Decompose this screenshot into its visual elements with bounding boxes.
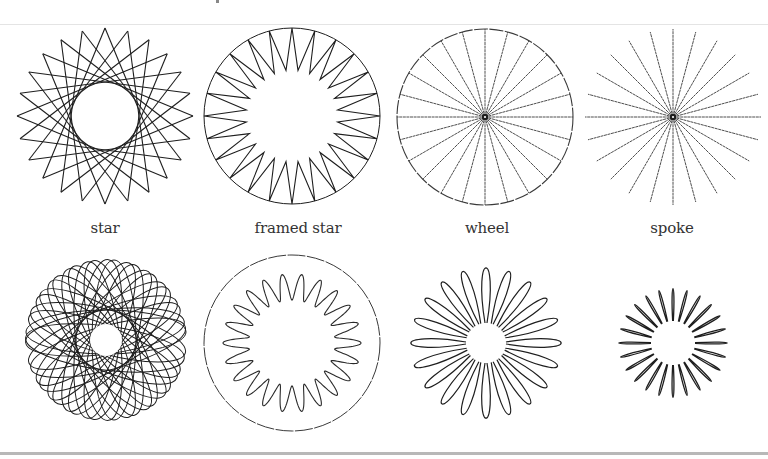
label-spoke: spoke xyxy=(592,219,752,237)
spoke-line xyxy=(400,117,485,140)
star-chord xyxy=(29,72,190,93)
spoke-line xyxy=(409,73,485,117)
star-chord xyxy=(128,40,149,201)
petal xyxy=(678,291,687,322)
spoke-line xyxy=(485,117,508,202)
spoke-line xyxy=(441,41,485,117)
spoke-line xyxy=(462,117,485,202)
petal xyxy=(482,268,491,323)
frame-circle xyxy=(204,255,380,431)
petal xyxy=(414,348,467,367)
pattern-looped-star xyxy=(21,255,191,426)
petal xyxy=(491,271,510,324)
spoke-line xyxy=(629,41,673,117)
spoke-line xyxy=(485,55,547,117)
petal xyxy=(672,289,674,321)
star-zigzag xyxy=(204,28,380,204)
spoke-line xyxy=(485,117,529,193)
spoke-line xyxy=(441,117,485,193)
petal xyxy=(461,362,480,415)
spoke-line xyxy=(597,117,673,161)
bottom-divider xyxy=(0,452,768,455)
petal xyxy=(461,271,480,324)
petal xyxy=(695,342,727,344)
spoke-line xyxy=(611,117,673,179)
spoke-line xyxy=(400,94,485,117)
spoke-line xyxy=(673,32,696,117)
petal xyxy=(491,362,510,415)
star-chord xyxy=(61,40,82,201)
spoke-line xyxy=(673,117,758,140)
spoke-line xyxy=(423,117,485,179)
spoke-line xyxy=(650,117,673,202)
label-framed-star: framed star xyxy=(218,219,378,237)
star-chord xyxy=(29,139,190,160)
spoke-line xyxy=(650,32,673,117)
star-chord xyxy=(128,31,149,192)
inner-hole xyxy=(90,324,122,356)
hub-hole xyxy=(484,116,486,118)
spoke-line xyxy=(485,41,529,117)
spoke-line xyxy=(485,117,570,140)
wave-ring xyxy=(223,275,361,412)
star-chord xyxy=(61,31,82,192)
spoke-line xyxy=(423,55,485,117)
spoke-line xyxy=(588,117,673,140)
label-wheel: wheel xyxy=(407,219,567,237)
spoke-line xyxy=(673,41,717,117)
spoke-line xyxy=(462,32,485,117)
star-chord xyxy=(20,139,181,160)
spoke-line xyxy=(629,117,673,193)
petal xyxy=(659,291,668,322)
petal xyxy=(621,329,652,338)
petal xyxy=(482,363,491,418)
petal xyxy=(505,348,558,367)
pattern-wheel xyxy=(397,29,573,205)
spoke-line xyxy=(611,55,673,117)
petal xyxy=(619,342,651,344)
pattern-framed-star xyxy=(204,28,380,204)
spoke-line xyxy=(673,55,735,117)
petal xyxy=(659,364,668,395)
spoke-line xyxy=(485,73,561,117)
petal xyxy=(678,364,687,395)
spoke-line xyxy=(673,117,717,193)
spoke-line xyxy=(588,94,673,117)
pattern-daisy xyxy=(411,268,561,418)
spoke-line xyxy=(673,73,749,117)
petal xyxy=(672,365,674,397)
petal xyxy=(505,318,558,337)
spoke-line xyxy=(673,117,735,179)
petal xyxy=(694,329,725,338)
spoke-line xyxy=(673,117,696,202)
pattern-framed-wave xyxy=(204,255,380,431)
petal xyxy=(414,318,467,337)
hub-hole xyxy=(672,116,674,118)
pattern-star xyxy=(17,28,193,204)
label-star: star xyxy=(25,219,185,237)
petal xyxy=(621,348,652,357)
spoke-line xyxy=(485,94,570,117)
spoke-line xyxy=(485,32,508,117)
spoke-line xyxy=(485,117,547,179)
petal xyxy=(411,339,466,348)
spoke-line xyxy=(485,117,561,161)
spoke-line xyxy=(597,73,673,117)
spoke-line xyxy=(673,94,758,117)
spoke-line xyxy=(409,117,485,161)
star-chord xyxy=(20,72,181,93)
spoke-line xyxy=(673,117,749,161)
petal xyxy=(694,348,725,357)
pattern-burst xyxy=(619,289,728,398)
pattern-spoke xyxy=(585,29,761,205)
petal xyxy=(506,339,561,348)
